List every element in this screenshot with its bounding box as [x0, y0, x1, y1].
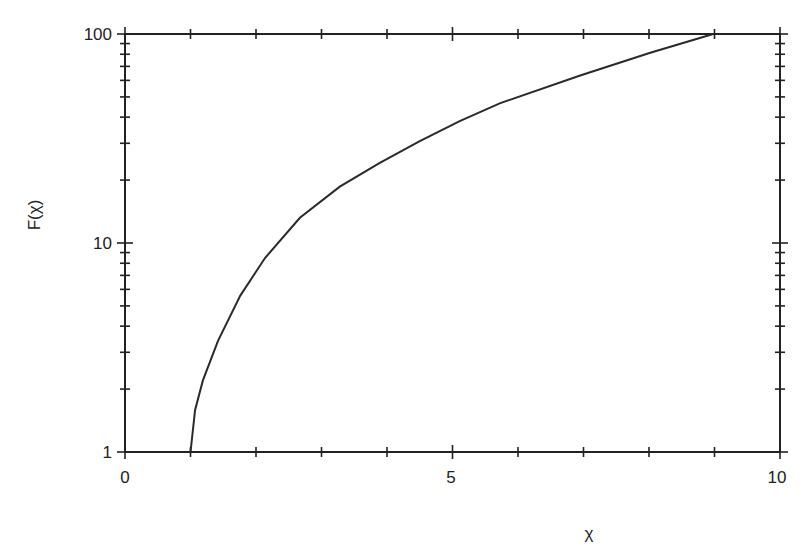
x-tick-label-10: 10: [768, 468, 787, 487]
x-tick-label-5: 5: [446, 468, 455, 487]
x-axis-label: χ: [585, 524, 594, 543]
x-tick-label-0: 0: [120, 468, 129, 487]
plot-frame: [125, 34, 780, 452]
y-axis-label: F(χ): [25, 200, 44, 231]
axis-ticks: [117, 27, 788, 459]
y-tick-label-10: 10: [93, 234, 112, 253]
y-tick-label-100: 100: [84, 25, 112, 44]
data-curve: [191, 34, 714, 452]
chart: 100 10 1 0 5 10 χ F(χ): [0, 0, 809, 560]
y-tick-label-1: 1: [103, 443, 112, 462]
